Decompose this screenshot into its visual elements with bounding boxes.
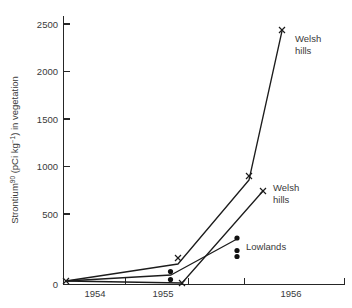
annotation-welsh-hills-top-line1: Welsh: [295, 33, 321, 44]
x-tick-label-1956: 1956: [280, 288, 301, 299]
marker-dot-lowlands-1: [168, 269, 173, 274]
y-tick-label-0: 0: [53, 279, 58, 290]
marker-dot-lowlands-2: [168, 277, 173, 282]
y-tick-label-500: 500: [42, 209, 58, 220]
series-line-welsh-hills-lower: [66, 191, 263, 283]
annotation-welsh-hills-mid: Welsh hills: [273, 182, 299, 205]
annotation-lowlands: Lowlands: [246, 241, 286, 252]
series-line-lowlands: [66, 239, 237, 281]
y-axis-ticks: [64, 24, 71, 214]
annotation-welsh-hills-mid-line1: Welsh: [273, 182, 299, 193]
marker-dot-lowlands-5: [234, 254, 239, 259]
y-axis-title-tail: ) in vegetation: [9, 76, 20, 136]
annotation-welsh-hills-top: Welsh hills: [295, 33, 321, 56]
marker-dot-lowlands-4: [234, 248, 239, 253]
strontium-line-chart: 2500 2000 1500 1000 500 0 1954 1955 1956…: [0, 0, 352, 308]
annotation-welsh-hills-top-line2: hills: [295, 45, 312, 56]
y-axis-title-main: Strontium: [9, 183, 20, 224]
annotation-welsh-hills-mid-line2: hills: [273, 194, 290, 205]
y-axis-title: Strontium90 (pCi kg−1) in vegetation: [9, 76, 21, 224]
y-tick-label-2500: 2500: [37, 19, 58, 30]
y-tick-label-1000: 1000: [37, 161, 58, 172]
marker-x-1955-975: [260, 188, 266, 194]
x-tick-label-1954: 1954: [84, 288, 105, 299]
y-axis-title-unit: (pCi kg: [9, 143, 20, 176]
marker-x-1954-185: [175, 255, 181, 261]
x-tick-label-1955: 1955: [152, 288, 173, 299]
y-tick-label-1500: 1500: [37, 114, 58, 125]
y-tick-label-2000: 2000: [37, 66, 58, 77]
chart-container: 2500 2000 1500 1000 500 0 1954 1955 1956…: [0, 0, 352, 308]
marker-dot-lowlands-3: [234, 235, 239, 240]
x-axis-tick-labels: 1954 1955 1956: [84, 288, 301, 299]
y-axis-tick-labels: 2500 2000 1500 1000 500 0: [37, 19, 58, 291]
